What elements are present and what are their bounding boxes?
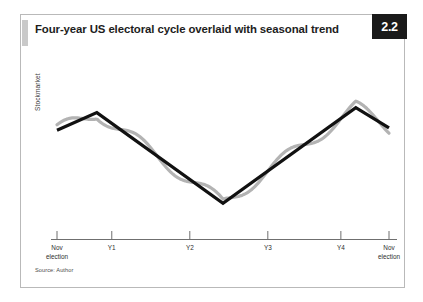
x-axis: Nov electionY1Y2Y3Y4Nov election bbox=[21, 230, 406, 272]
figure-header: Four-year US electoral cycle overlaid wi… bbox=[21, 15, 406, 49]
chart-canvas bbox=[21, 49, 406, 255]
x-tick-label-0: Nov election bbox=[33, 244, 81, 261]
title-accent-tab bbox=[22, 20, 28, 46]
x-axis-line-and-ticks bbox=[21, 230, 406, 244]
figure-number-badge: 2.2 bbox=[372, 14, 407, 39]
x-tick-label-4: Y4 bbox=[317, 244, 365, 253]
x-tick-label-3: Y3 bbox=[244, 244, 292, 253]
x-tick-label-5: Nov election bbox=[365, 244, 413, 261]
x-tick-label-2: Y2 bbox=[166, 244, 214, 253]
seasonal-trend-line bbox=[57, 101, 389, 199]
source-note: Source: Author bbox=[35, 267, 73, 273]
series-seasonal-trend bbox=[57, 101, 389, 199]
figure-frame: Four-year US electoral cycle overlaid wi… bbox=[20, 14, 405, 288]
chart-plot-area: Stockmarket bbox=[21, 49, 406, 255]
page-title: Four-year US electoral cycle overlaid wi… bbox=[35, 23, 355, 35]
x-tick-label-1: Y1 bbox=[88, 244, 136, 253]
